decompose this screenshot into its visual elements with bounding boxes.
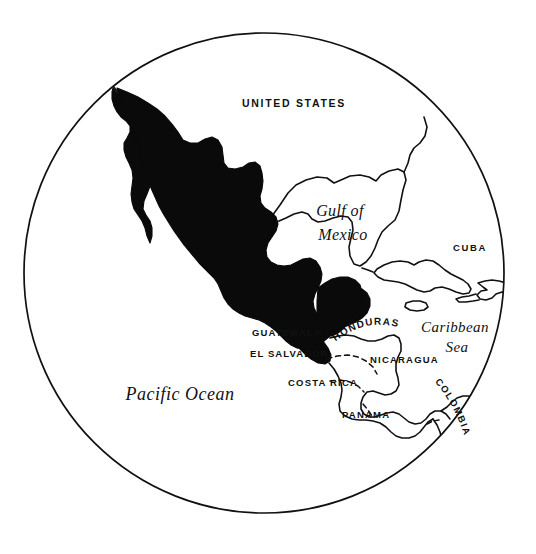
- label-el-salvador: EL SALVADOR: [250, 348, 329, 359]
- label-caribbean-sea-line1: Caribbean: [421, 319, 489, 335]
- label-guatemala: GUATEMALA: [252, 327, 322, 338]
- label-cuba: CUBA: [453, 242, 487, 253]
- label-united-states: UNITED STATES: [242, 97, 346, 109]
- label-panama: PANAMA: [342, 409, 390, 420]
- label-gulf-of-mexico-line1: Gulf of: [316, 202, 366, 220]
- label-gulf-of-mexico-line2: Mexico: [317, 226, 367, 243]
- label-costa-rica: COSTA RICA: [288, 377, 358, 388]
- label-nicaragua: NICARAGUA: [370, 354, 439, 365]
- label-pacific-ocean: Pacific Ocean: [125, 384, 235, 404]
- label-caribbean-sea-line2: Sea: [446, 339, 469, 355]
- map-canvas: UNITED STATES Gulf of Mexico CUBA Caribb…: [0, 0, 536, 554]
- map-figure: UNITED STATES Gulf of Mexico CUBA Caribb…: [0, 0, 536, 554]
